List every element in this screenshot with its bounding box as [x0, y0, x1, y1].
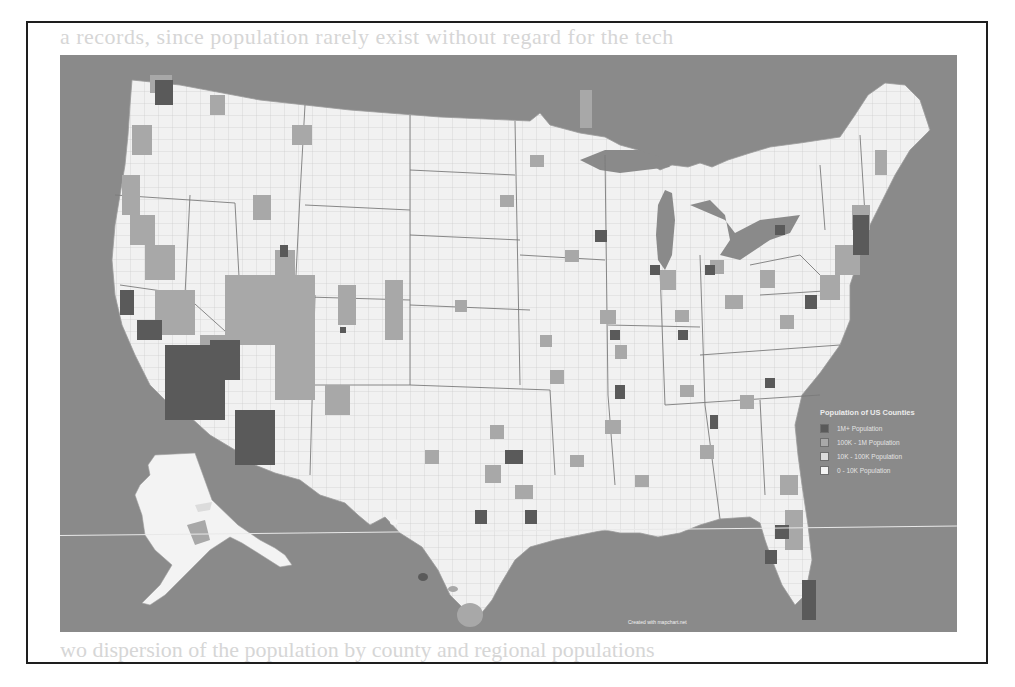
map-legend: Population of US Counties 1M+ Population… — [820, 408, 950, 478]
legend-swatch-10k-100k — [820, 452, 829, 461]
legend-swatch-100k-1m — [820, 438, 829, 447]
us-counties-map — [60, 55, 957, 632]
alaska-landmass — [135, 453, 292, 605]
legend-item: 100K - 1M Population — [820, 436, 950, 448]
legend-swatch-1m-plus — [820, 424, 829, 433]
hawaii-oahu — [418, 573, 428, 581]
legend-item: 1M+ Population — [820, 422, 950, 434]
legend-title: Population of US Counties — [820, 408, 950, 417]
legend-item: 10K - 100K Population — [820, 450, 950, 462]
choropleth-map: Population of US Counties 1M+ Population… — [60, 55, 957, 632]
legend-swatch-0-10k — [820, 466, 829, 475]
legend-label: 100K - 1M Population — [837, 439, 900, 446]
hawaii-big-island — [457, 603, 483, 627]
legend-label: 10K - 100K Population — [837, 453, 902, 460]
hawaii-island-niihau — [390, 519, 398, 525]
map-credit: Created with mapchart.net — [628, 619, 687, 625]
legend-label: 0 - 10K Population — [837, 467, 890, 474]
legend-label: 1M+ Population — [837, 425, 882, 432]
hawaii-maui — [448, 586, 458, 592]
legend-item: 0 - 10K Population — [820, 464, 950, 476]
